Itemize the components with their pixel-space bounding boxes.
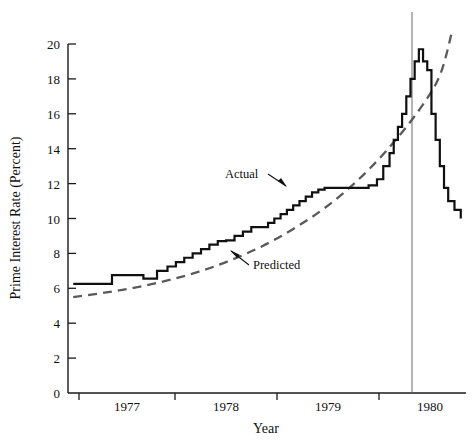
actual-arrow-head — [278, 178, 287, 187]
y-axis-tick-labels: 20 18 16 14 12 10 8 6 4 2 0 — [47, 37, 61, 401]
line-chart: 20 18 16 14 12 10 8 6 4 2 0 1977 1978 19… — [0, 0, 472, 445]
y-tick-label-10: 10 — [47, 212, 60, 227]
annotation-predicted: Predicted — [230, 250, 301, 272]
y-tick-label-20: 20 — [47, 37, 60, 52]
x-tick-label-1977: 1977 — [114, 399, 141, 414]
x-tick-label-1978: 1978 — [213, 399, 239, 414]
y-axis-ticks — [68, 44, 76, 358]
y-tick-label-2: 2 — [54, 351, 61, 366]
y-tick-label-6: 6 — [54, 281, 61, 296]
y-tick-label-16: 16 — [47, 107, 61, 122]
y-tick-label-0: 0 — [54, 386, 61, 401]
x-tick-label-1979: 1979 — [315, 399, 341, 414]
y-axis-title: Prime Interest Rate (Percent) — [8, 136, 24, 299]
y-tick-label-18: 18 — [47, 72, 60, 87]
series-predicted-line — [73, 30, 452, 297]
predicted-label: Predicted — [253, 258, 301, 272]
y-tick-label-8: 8 — [54, 246, 61, 261]
x-axis-title: Year — [253, 421, 279, 436]
y-tick-label-4: 4 — [54, 316, 61, 331]
x-axis-tick-labels: 1977 1978 1979 1980 — [114, 399, 443, 414]
annotation-actual: Actual — [225, 167, 287, 187]
series-actual-line — [73, 49, 461, 284]
y-tick-label-12: 12 — [47, 177, 60, 192]
actual-label: Actual — [225, 167, 259, 181]
x-tick-label-1980: 1980 — [417, 399, 443, 414]
y-tick-label-14: 14 — [47, 142, 61, 157]
figure-container: 20 18 16 14 12 10 8 6 4 2 0 1977 1978 19… — [0, 0, 472, 445]
